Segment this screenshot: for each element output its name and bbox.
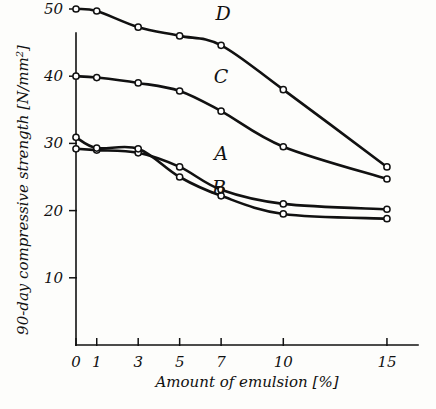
y-tick-label: 50 bbox=[44, 0, 64, 18]
data-point-C bbox=[384, 176, 390, 182]
x-tick-label: 0 bbox=[71, 353, 81, 371]
data-point-A bbox=[73, 146, 79, 152]
x-axis-title: Amount of emulsion [%] bbox=[153, 373, 338, 391]
data-point-B bbox=[177, 174, 183, 180]
data-point-B bbox=[73, 134, 79, 140]
y-axis-title-tail: ] bbox=[14, 45, 32, 52]
y-tick-label: 20 bbox=[43, 202, 64, 220]
y-axis-title-main: 90-day compressive strength [N/mm bbox=[14, 57, 32, 335]
data-point-D bbox=[218, 42, 224, 48]
data-point-D bbox=[135, 24, 141, 30]
x-tick-label: 3 bbox=[133, 353, 143, 371]
x-tick-label: 1 bbox=[92, 353, 102, 371]
y-axis-title-superscript: 2 bbox=[14, 51, 25, 58]
series-markers bbox=[73, 6, 390, 222]
series-curve-labels: ABCD bbox=[211, 2, 231, 198]
data-point-D bbox=[177, 33, 183, 39]
y-tick-label: 10 bbox=[44, 269, 64, 287]
data-point-D bbox=[94, 8, 100, 14]
series-lines bbox=[76, 9, 387, 219]
y-axis-title: 90-day compressive strength [N/mm2] bbox=[14, 45, 32, 335]
series-label-C: C bbox=[214, 65, 229, 87]
series-label-D: D bbox=[215, 2, 231, 24]
data-point-D bbox=[280, 87, 286, 93]
chart-plot-area: 1020304050 013571015 ABCD Amount of emul… bbox=[0, 0, 436, 409]
data-point-C bbox=[73, 73, 79, 79]
y-axis-tick-labels: 1020304050 bbox=[43, 0, 64, 287]
data-point-C bbox=[94, 74, 100, 80]
data-point-B bbox=[384, 216, 390, 222]
data-point-A bbox=[384, 206, 390, 212]
data-point-D bbox=[73, 6, 79, 12]
data-point-D bbox=[384, 164, 390, 170]
x-tick-label: 15 bbox=[377, 353, 396, 371]
data-point-B bbox=[280, 211, 286, 217]
chart-figure: 1020304050 013571015 ABCD Amount of emul… bbox=[0, 0, 436, 409]
data-point-C bbox=[218, 108, 224, 114]
data-point-C bbox=[177, 88, 183, 94]
series-label-A: A bbox=[212, 142, 228, 164]
data-point-C bbox=[135, 80, 141, 86]
x-tick-label: 5 bbox=[175, 353, 185, 371]
data-point-B bbox=[94, 145, 100, 151]
y-tick-label: 40 bbox=[43, 67, 64, 85]
x-tick-label: 10 bbox=[274, 353, 294, 371]
data-point-C bbox=[280, 144, 286, 150]
x-tick-label: 7 bbox=[216, 353, 226, 371]
x-axis-tick-labels: 013571015 bbox=[71, 353, 396, 371]
series-label-B: B bbox=[211, 176, 226, 198]
series-line-C bbox=[76, 76, 387, 179]
data-point-A bbox=[177, 164, 183, 170]
data-point-A bbox=[280, 201, 286, 207]
data-point-B bbox=[135, 146, 141, 152]
y-tick-label: 30 bbox=[44, 134, 64, 152]
series-line-D bbox=[76, 9, 387, 167]
y-axis-title-group: 90-day compressive strength [N/mm2] bbox=[14, 45, 32, 335]
